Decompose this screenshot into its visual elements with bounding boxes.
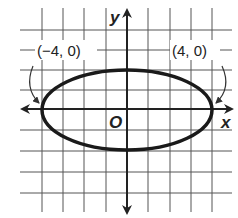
pointer-arrow-right xyxy=(216,66,226,103)
pointer-arrow-left xyxy=(30,66,39,103)
point-label-left: (−4, 0) xyxy=(37,42,81,59)
x-axis-label: x xyxy=(220,113,232,132)
y-axis-label: y xyxy=(109,8,121,27)
origin-label: O xyxy=(109,113,122,132)
point-label-right: (4, 0) xyxy=(172,42,207,59)
coordinate-plane: (−4, 0) (4, 0) y x O xyxy=(0,0,238,218)
